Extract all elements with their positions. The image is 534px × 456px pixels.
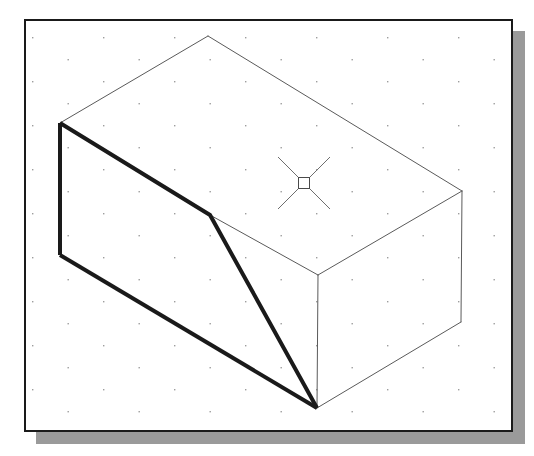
grid-dot [174,37,175,38]
grid-dot [210,191,211,192]
grid-dot [32,169,33,170]
grid-dot [281,59,282,60]
grid-dot [352,367,353,368]
grid-dot [139,411,140,412]
grid-dot [494,411,495,412]
grid-dot [32,301,33,302]
grid-dot [245,125,246,126]
grid-dot [68,367,69,368]
grid-dot [316,125,317,126]
grid-dot [494,103,495,104]
grid-dot [245,169,246,170]
grid-dot [139,147,140,148]
grid-dot [494,279,495,280]
grid-dot [387,37,388,38]
grid-dot [423,279,424,280]
cad-drawing-screen [0,0,534,456]
grid-dot [423,235,424,236]
grid-dot [423,191,424,192]
grid-dot [139,279,140,280]
grid-dot [210,103,211,104]
grid-dot [458,301,459,302]
grid-dot [245,81,246,82]
grid-dot [494,367,495,368]
grid-dot [210,235,211,236]
grid-dot [245,389,246,390]
grid-dot [174,213,175,214]
grid-dot [316,37,317,38]
grid-dot [458,169,459,170]
grid-dot [387,345,388,346]
grid-dot [68,235,69,236]
grid-dot [494,323,495,324]
grid-dot [103,301,104,302]
grid-dot [32,37,33,38]
grid-dot [174,169,175,170]
grid-dot [387,301,388,302]
grid-dot [387,389,388,390]
grid-dot [245,37,246,38]
grid-dot [103,37,104,38]
grid-dot [423,147,424,148]
grid-dot [494,59,495,60]
cad-figure-canvas [0,0,534,456]
grid-dot [174,301,175,302]
grid-dot [281,323,282,324]
grid-dot [139,323,140,324]
grid-dot [245,257,246,258]
grid-dot [103,125,104,126]
grid-dot [68,191,69,192]
drawing-window-border [25,20,512,431]
grid-dot [281,191,282,192]
grid-dot [103,389,104,390]
grid-dot [423,367,424,368]
grid-dot [281,147,282,148]
grid-dot [352,411,353,412]
grid-dot [352,323,353,324]
grid-dot [494,147,495,148]
grid-dot [423,411,424,412]
grid-dot [352,235,353,236]
grid-dot [458,389,459,390]
grid-dot [68,279,69,280]
grid-dot [32,257,33,258]
grid-dot [245,345,246,346]
grid-dot [281,235,282,236]
grid-dot [174,81,175,82]
grid-dot [352,191,353,192]
grid-dot [68,59,69,60]
grid-dot [103,169,104,170]
grid-dot [68,147,69,148]
grid-dot [103,213,104,214]
grid-dot [352,279,353,280]
grid-dot [68,411,69,412]
grid-dot [174,257,175,258]
grid-dot [32,213,33,214]
grid-dot [458,213,459,214]
grid-dot [32,389,33,390]
grid-dot [387,125,388,126]
grid-dot [210,147,211,148]
grid-dot [458,125,459,126]
grid-dot [352,147,353,148]
grid-dot [423,59,424,60]
grid-dot [245,301,246,302]
grid-dot [32,125,33,126]
grid-dot [174,125,175,126]
grid-dot [387,169,388,170]
grid-dot [281,411,282,412]
grid-dot [103,345,104,346]
grid-dot [387,81,388,82]
grid-dot [174,345,175,346]
grid-dot [316,213,317,214]
grid-dot [281,367,282,368]
grid-dot [352,103,353,104]
grid-dot [139,191,140,192]
grid-dot [32,81,33,82]
grid-dot [139,59,140,60]
grid-dot [458,37,459,38]
grid-dot [494,191,495,192]
grid-dot [210,323,211,324]
grid-dot [32,345,33,346]
grid-dot [174,389,175,390]
